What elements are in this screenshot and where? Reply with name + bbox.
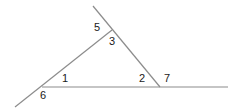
right-transversal-line <box>93 6 160 87</box>
angle-label-1: 1 <box>62 73 68 84</box>
angle-label-5: 5 <box>94 22 100 33</box>
angle-label-2: 2 <box>139 73 145 84</box>
angle-label-6: 6 <box>40 90 46 101</box>
angle-label-3: 3 <box>109 36 115 47</box>
angle-label-7: 7 <box>164 73 170 84</box>
triangle-diagram: 5 3 1 2 7 6 <box>0 0 239 110</box>
diagram-lines <box>0 0 239 110</box>
left-transversal-line <box>15 30 112 107</box>
